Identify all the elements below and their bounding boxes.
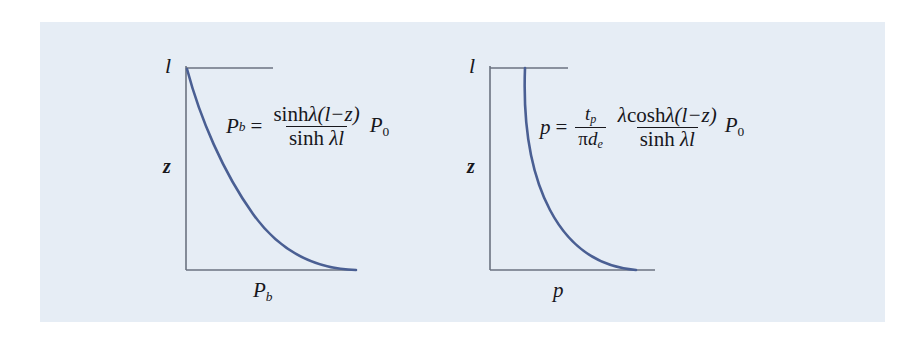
right-plot-svg [40,22,885,322]
right-axis-top-label: l [469,55,475,77]
right-x-axis-label: p [553,280,564,301]
right-y-axis-label: z [467,156,475,176]
figure-container: l z Pb Pb = sinhλ(l−z) sinh λl P0 [0,0,917,344]
figure-panel: l z Pb Pb = sinhλ(l−z) sinh λl P0 [40,22,885,322]
right-equation: p = tp πde λcoshλ(l−z) sinh λl P0 [540,104,744,150]
right-curve [525,68,636,270]
right-plot: l z p p = tp πde λcoshλ(l−z) sinh λl P0 [40,22,885,322]
